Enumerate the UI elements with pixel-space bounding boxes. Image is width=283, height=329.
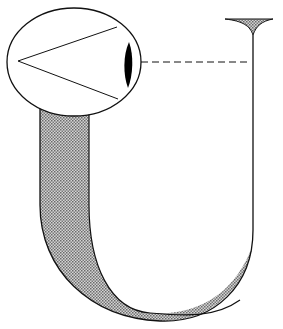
funnel-opening [225,19,273,35]
eyeball [7,8,141,116]
eye-tube-diagram [0,0,283,329]
u-tube-shaded-band [40,104,252,321]
u-tube-inner-edge [89,104,240,315]
